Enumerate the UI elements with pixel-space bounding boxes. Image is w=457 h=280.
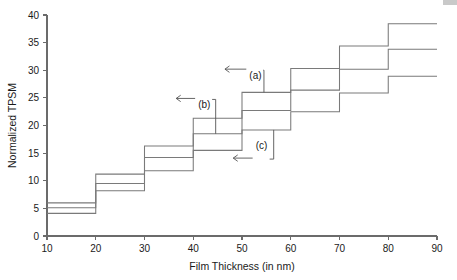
y-tick-label: 40 <box>28 10 40 21</box>
chart-figure: 0510152025303540 102030405060708090 (a)(… <box>0 0 457 280</box>
x-tick-label: 90 <box>431 243 443 254</box>
x-tick-label: 50 <box>236 243 248 254</box>
x-tick-label: 20 <box>90 243 102 254</box>
x-tick-label: 70 <box>334 243 346 254</box>
x-axis-title: Film Thickness (in nm) <box>189 260 294 272</box>
corner-artifact <box>443 0 457 5</box>
y-tick-label: 20 <box>28 120 40 131</box>
y-tick-label: 10 <box>28 175 40 186</box>
x-tick-label: 60 <box>285 243 297 254</box>
annotation-label: (b) <box>198 99 210 110</box>
annotation-label: (a) <box>249 70 261 81</box>
x-tick-label: 30 <box>139 243 151 254</box>
annotation-label: (c) <box>256 140 268 151</box>
y-tick-label: 35 <box>28 37 40 48</box>
y-tick-label: 30 <box>28 65 40 76</box>
x-tick-label: 10 <box>41 243 53 254</box>
x-tick-label: 40 <box>188 243 200 254</box>
y-tick-label: 0 <box>33 231 39 242</box>
x-tick-label: 80 <box>383 243 395 254</box>
step-chart: 0510152025303540 102030405060708090 (a)(… <box>0 0 457 280</box>
y-tick-label: 25 <box>28 92 40 103</box>
y-axis-title: Normalized TPSM <box>6 83 18 168</box>
y-tick-label: 15 <box>28 148 40 159</box>
y-tick-label: 5 <box>33 203 39 214</box>
